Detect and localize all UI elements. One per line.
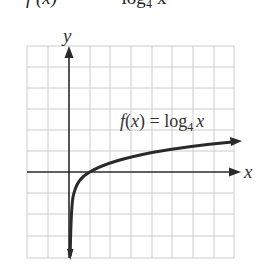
y-axis-arrow-icon [65,46,74,58]
axes [27,46,241,258]
x-axis-label: x [243,161,253,182]
x-axis-arrow-icon [229,168,241,177]
log-function-chart: y x f(x) = log4x [0,0,264,271]
y-axis-label: y [61,25,72,46]
curve-label-arg: x [195,111,204,131]
curve-label-sub: 4 [187,120,193,134]
grid [27,46,234,258]
curve-end-arrow-icon [230,137,242,146]
curve-label-x: x [130,111,139,131]
curve-label-eq: ) = log [139,111,187,132]
log-curve [70,142,232,255]
curve-label: f(x) = log4x [120,111,204,134]
